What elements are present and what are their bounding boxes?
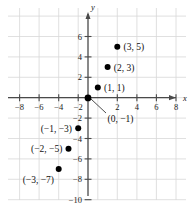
data-point (114, 44, 120, 50)
point-label: (0, −1) (108, 114, 134, 125)
leader-line-origin-point (91, 99, 106, 113)
y-axis-arrow (86, 12, 91, 19)
y-tick-label: 2 (78, 72, 82, 82)
x-tick-labels: −8 −6 −4 −2 2 4 6 8 (15, 102, 178, 112)
data-point (85, 95, 92, 102)
x-tick-label: −6 (35, 102, 44, 112)
point-label: (−1, −3) (41, 124, 72, 135)
x-axis-arrow (169, 95, 176, 100)
axis-lines (8, 14, 176, 196)
point-label: (3, 5) (124, 42, 145, 53)
x-tick-label: −8 (15, 102, 24, 112)
y-tick-label: −4 (73, 134, 83, 144)
coordinate-plane-figure: −8 −6 −4 −2 2 4 6 8 6 4 2 −2 −4 −6 −8 −1… (0, 0, 193, 208)
x-tick-label: 2 (115, 102, 119, 112)
x-tick-label: 8 (174, 102, 178, 112)
point-label: (1, 1) (104, 83, 125, 94)
y-tick-label: −6 (73, 154, 82, 164)
y-tick-label: −10 (69, 195, 82, 205)
data-point (75, 125, 81, 131)
point-label: (−3, −7) (23, 175, 54, 186)
y-tick-label: 6 (78, 32, 82, 42)
data-point (66, 146, 72, 152)
data-point-labels: (3, 5) (2, 3) (1, 1) (0, −1) (−1, −3) (−… (23, 42, 144, 185)
y-axis-label: y (90, 2, 95, 12)
x-tick-label: 6 (154, 102, 158, 112)
x-tick-label: −4 (54, 102, 64, 112)
data-point (56, 166, 62, 172)
y-tick-label: −8 (73, 174, 82, 184)
point-label: (−2, −5) (31, 144, 62, 155)
x-tick-label: 4 (135, 102, 140, 112)
data-point (95, 85, 101, 91)
x-tick-label: −2 (74, 102, 83, 112)
y-tick-label: −2 (73, 113, 82, 123)
data-point (105, 64, 111, 70)
scatter-plot-svg: −8 −6 −4 −2 2 4 6 8 6 4 2 −2 −4 −6 −8 −1… (0, 0, 193, 208)
x-axis-label: x (182, 93, 187, 103)
point-label: (2, 3) (114, 63, 135, 74)
